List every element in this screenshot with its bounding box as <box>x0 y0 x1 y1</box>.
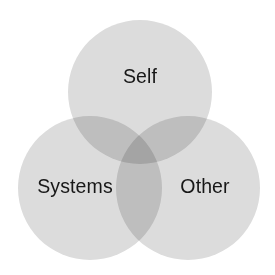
label-self: Self <box>123 65 157 87</box>
venn-canvas: Self Systems Other <box>0 0 275 275</box>
label-other: Other <box>180 175 230 197</box>
label-systems: Systems <box>37 175 113 197</box>
venn-diagram: Self Systems Other <box>0 0 275 275</box>
